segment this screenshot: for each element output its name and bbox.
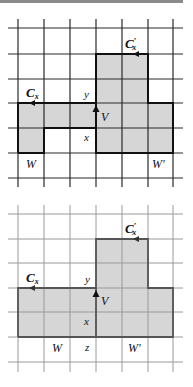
label-cxprime: C′x bbox=[125, 36, 137, 52]
label-w: W bbox=[26, 157, 37, 171]
label-w: W bbox=[52, 341, 63, 355]
label-x: x bbox=[83, 315, 89, 327]
label-z: z bbox=[84, 341, 90, 353]
label-wprime: W′ bbox=[128, 341, 141, 355]
label-y: y bbox=[83, 88, 89, 100]
label-cx: Cx bbox=[26, 85, 39, 101]
label-wprime: W′ bbox=[152, 157, 165, 171]
label-y: y bbox=[84, 273, 90, 285]
bottom-diagram: Cx C′x y V x W z W′ bbox=[8, 205, 183, 372]
diagram-canvas: Cx C′x y V x W W′ bbox=[0, 0, 193, 387]
label-x: x bbox=[83, 131, 89, 143]
label-cxprime: C′x bbox=[125, 221, 137, 237]
label-cx: Cx bbox=[26, 270, 39, 286]
top-diagram: Cx C′x y V x W W′ bbox=[8, 19, 183, 187]
